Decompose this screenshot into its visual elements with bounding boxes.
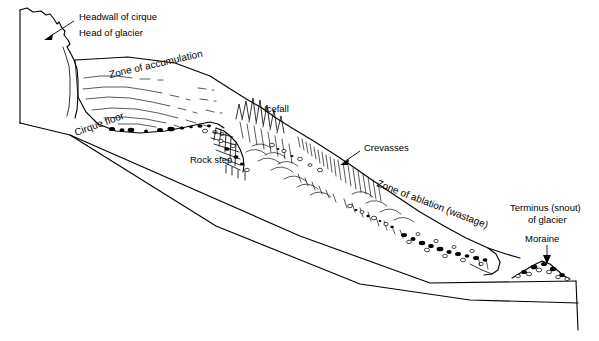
glacier-profile-svg: Headwall of cirque Head of glacier Zone … (0, 0, 599, 341)
crevasses-leader-line (344, 151, 360, 162)
label-terminus-line2: of glacier (528, 214, 567, 225)
ablation-surface-arcs (246, 144, 336, 202)
label-moraine: Moraine (525, 233, 559, 244)
terminal-moraine (512, 261, 570, 281)
glacier-body (75, 57, 520, 258)
supraglacial-debris (270, 143, 488, 265)
label-headwall-of-cirque: Headwall of cirque (79, 11, 157, 22)
label-zone-of-ablation: Zone of ablation (wastage) (375, 178, 489, 231)
label-rock-step: Rock step (190, 154, 232, 165)
label-icefall: Icefall (264, 103, 289, 114)
diagram-labels: Headwall of cirque Head of glacier Zone … (73, 11, 581, 244)
label-zone-of-accumulation: Zone of accumulation (108, 48, 204, 80)
label-crevasses: Crevasses (364, 142, 409, 153)
label-head-of-glacier: Head of glacier (79, 27, 143, 38)
bedrock-outline (20, 8, 578, 330)
headwall-arrowhead (44, 34, 53, 40)
diagram-canvas: Headwall of cirque Head of glacier Zone … (0, 0, 599, 341)
label-terminus-line1: Terminus (snout) (510, 202, 581, 213)
